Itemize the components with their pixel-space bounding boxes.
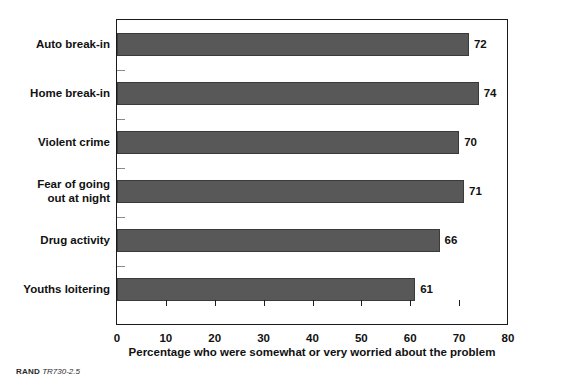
bar-value-label: 74 <box>484 83 497 104</box>
bar-value-label: 72 <box>474 34 487 55</box>
x-axis-tick-label: 60 <box>404 332 417 344</box>
x-axis-tick <box>459 300 460 306</box>
bar <box>117 82 479 105</box>
bar <box>117 180 464 203</box>
x-axis-tick <box>313 300 314 306</box>
category-label: Fear of goingout at night <box>0 178 110 205</box>
category-label-line: Drug activity <box>0 234 110 248</box>
category-label: Drug activity <box>0 234 110 248</box>
y-axis-tick <box>117 266 125 267</box>
bars-layer: 727470716661 <box>117 19 508 325</box>
x-axis-tick-label: 40 <box>306 332 319 344</box>
y-axis-tick <box>117 119 125 120</box>
bar-value-label: 61 <box>420 279 433 300</box>
figure-source-note: RAND TR730-2.5 <box>16 367 80 376</box>
bar-row: 70 <box>117 117 508 166</box>
x-axis-tick <box>264 300 265 306</box>
footer-code: TR730-2.5 <box>42 367 80 376</box>
x-axis-tick <box>361 300 362 306</box>
category-label: Auto break-in <box>0 38 110 52</box>
category-label-line: Auto break-in <box>0 38 110 52</box>
category-label-line: out at night <box>0 192 110 206</box>
bar <box>117 229 440 252</box>
bar-row: 66 <box>117 215 508 264</box>
bar-value-label: 66 <box>445 230 458 251</box>
bar-value-label: 70 <box>464 132 477 153</box>
x-axis-tick-label: 0 <box>114 332 120 344</box>
bar-row: 71 <box>117 166 508 215</box>
bar <box>117 278 415 301</box>
x-axis-tick <box>166 300 167 306</box>
x-axis-tick-label: 30 <box>257 332 270 344</box>
category-label-line: Youths loitering <box>0 283 110 297</box>
x-axis-tick-label: 20 <box>208 332 221 344</box>
bar <box>117 131 459 154</box>
category-label-line: Home break-in <box>0 87 110 101</box>
category-label: Violent crime <box>0 136 110 150</box>
x-axis-title: Percentage who were somewhat or very wor… <box>116 346 508 358</box>
y-axis-tick <box>117 168 125 169</box>
x-axis-tick-label: 70 <box>453 332 466 344</box>
bar-value-label: 71 <box>469 181 482 202</box>
x-axis-tick <box>215 300 216 306</box>
footer-brand: RAND <box>16 367 40 376</box>
bar-chart-figure: Auto break-inHome break-inViolent crimeF… <box>0 0 564 387</box>
category-label: Home break-in <box>0 87 110 101</box>
x-axis-tick <box>410 300 411 306</box>
bar <box>117 33 469 56</box>
category-label: Youths loitering <box>0 283 110 297</box>
y-axis-tick <box>117 70 125 71</box>
category-label-line: Fear of going <box>0 178 110 192</box>
bar-row: 72 <box>117 19 508 68</box>
category-label-line: Violent crime <box>0 136 110 150</box>
y-axis-tick <box>117 217 125 218</box>
x-axis-tick-label: 80 <box>502 332 515 344</box>
x-axis-tick-label: 50 <box>355 332 368 344</box>
x-axis-tick-label: 10 <box>159 332 172 344</box>
bar-row: 74 <box>117 68 508 117</box>
category-axis-labels: Auto break-inHome break-inViolent crimeF… <box>0 19 110 325</box>
